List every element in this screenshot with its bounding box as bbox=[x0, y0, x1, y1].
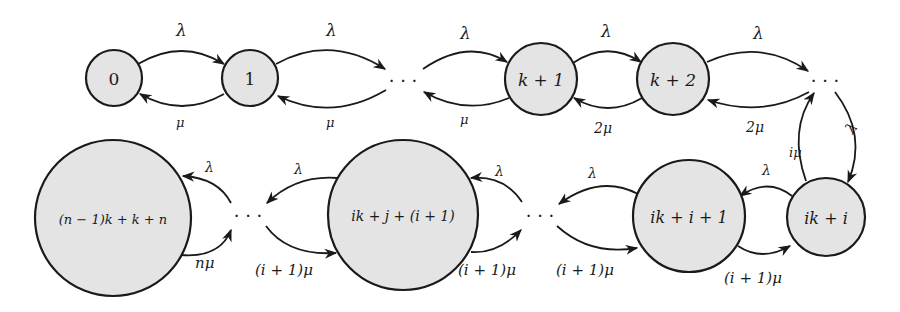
state-node-ik-plus-i-plus-1: ik + i + 1 bbox=[633, 160, 745, 272]
edge-label-i1mu: (i + 1)μ bbox=[556, 261, 614, 279]
edge-1-to-dots1 bbox=[276, 50, 385, 69]
state-node-0: 0 bbox=[86, 50, 142, 106]
edge-k1-to-k2 bbox=[573, 51, 641, 63]
edge-label-imu: iμ bbox=[789, 145, 802, 160]
edge-k1-to-dots1 bbox=[424, 92, 509, 106]
edge-dots4-to-last bbox=[183, 176, 231, 203]
edge-label-mu: μ bbox=[176, 115, 184, 130]
state-label: k + 2 bbox=[650, 70, 696, 90]
edge-label-lambda: λ bbox=[600, 21, 612, 41]
edge-ikj-to-dots4 bbox=[267, 178, 337, 203]
edge-k2-to-k1 bbox=[574, 98, 642, 108]
state-label: (n − 1)k + k + n bbox=[59, 212, 167, 227]
state-diagram: λ μ λ μ · · · λ μ λ 2μ λ 2μ · · · λ iμ λ… bbox=[0, 0, 900, 312]
edge-label-lambda: λ bbox=[494, 163, 504, 179]
ellipsis-1: · · · bbox=[389, 70, 418, 91]
state-node-ik-plus-j-plus-i-plus-1: ik + j + (i + 1) bbox=[328, 140, 478, 290]
edge-label-2mu: 2μ bbox=[593, 120, 612, 136]
state-label: k + 1 bbox=[518, 70, 564, 90]
edge-label-lambda: λ bbox=[587, 165, 597, 181]
edge-label-lambda: λ bbox=[752, 23, 764, 43]
state-node-k-plus-1: k + 1 bbox=[505, 43, 577, 115]
edge-label-lambda: λ bbox=[459, 23, 471, 43]
edge-dots3-to-iki1 bbox=[557, 226, 637, 250]
edge-iki1-to-iki bbox=[738, 246, 790, 254]
state-label: 0 bbox=[109, 69, 120, 89]
edge-k2-to-dots2 bbox=[707, 52, 808, 71]
ellipsis-4: · · · bbox=[234, 205, 263, 226]
edge-label-i1mu: (i + 1)μ bbox=[724, 269, 782, 287]
state-label: ik + i bbox=[804, 209, 848, 228]
state-label: ik + j + (i + 1) bbox=[351, 208, 455, 224]
edge-label-mu: μ bbox=[460, 112, 468, 127]
edge-label-lambda: λ bbox=[761, 162, 771, 178]
edge-label-lambda: λ bbox=[293, 161, 303, 177]
ellipsis-2: · · · bbox=[811, 70, 840, 91]
edge-iki-to-iki1 bbox=[740, 187, 792, 197]
state-node-ik-plus-i: ik + i bbox=[787, 178, 865, 256]
edge-dots4-to-ikj bbox=[266, 226, 336, 253]
edge-label-i1mu: (i + 1)μ bbox=[255, 261, 313, 279]
state-label: 1 bbox=[245, 69, 256, 89]
state-label: ik + i + 1 bbox=[650, 208, 727, 227]
state-node-last: (n − 1)k + k + n bbox=[35, 140, 191, 296]
state-node-1: 1 bbox=[222, 50, 278, 106]
edge-label-i1mu: (i + 1)μ bbox=[458, 261, 516, 279]
edge-dots1-to-1 bbox=[278, 90, 386, 108]
edge-label-mu: μ bbox=[326, 115, 334, 130]
edge-dots3-to-ikj bbox=[471, 178, 522, 202]
edge-1-to-0 bbox=[140, 94, 224, 106]
edge-ikj-to-dots3 bbox=[471, 230, 521, 252]
edge-iki-to-dots2 bbox=[799, 93, 814, 181]
edge-dots1-to-k1 bbox=[423, 52, 507, 69]
state-node-k-plus-2: k + 2 bbox=[637, 43, 709, 115]
edge-label-nmu: nμ bbox=[195, 254, 214, 272]
edge-label-lambda: λ bbox=[325, 20, 337, 40]
edge-iki1-to-dots3 bbox=[559, 186, 638, 204]
edge-label-lambda: λ bbox=[175, 20, 187, 40]
edge-label-lambda: λ bbox=[204, 159, 214, 175]
ellipsis-3: · · · bbox=[526, 205, 555, 226]
edge-dots2-to-iki bbox=[835, 92, 856, 182]
edge-dots2-to-k2 bbox=[708, 92, 809, 107]
edge-0-to-1 bbox=[138, 51, 224, 64]
edge-label-2mu: 2μ bbox=[745, 119, 764, 135]
